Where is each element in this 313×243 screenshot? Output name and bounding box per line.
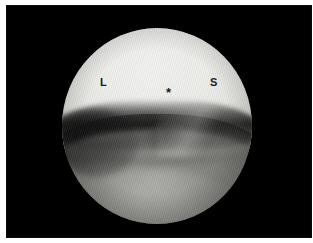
annotation-label-superior: S xyxy=(210,77,218,88)
figure-root: L * S xyxy=(0,0,313,243)
annotation-marker-asterisk: * xyxy=(166,86,171,99)
image-plate: L * S xyxy=(6,5,312,238)
right-oblique-ridge xyxy=(157,106,244,157)
arthroscope-circular-field: L * S xyxy=(62,28,252,224)
annotation-label-lateral: L xyxy=(100,77,107,88)
